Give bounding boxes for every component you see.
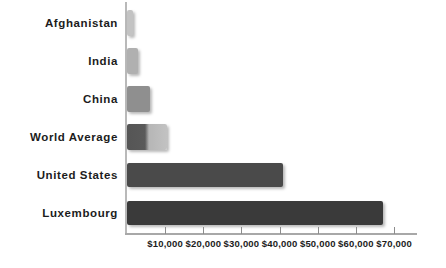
tick-label: $40,000 — [262, 238, 298, 249]
bar-chart-figure: AfghanistanIndiaChinaWorld AverageUnited… — [0, 0, 446, 268]
tick-mark — [356, 227, 357, 234]
tick-label: $50,000 — [300, 238, 336, 249]
tick-mark — [241, 227, 242, 234]
tick-label: $70,000 — [376, 238, 412, 249]
tick-mark — [280, 227, 281, 234]
tick-mark — [394, 227, 395, 234]
tick-label: $20,000 — [185, 238, 221, 249]
tick-mark — [318, 227, 319, 234]
tick-mark — [203, 227, 204, 234]
tick-mark — [165, 227, 166, 234]
x-axis-ticks: $10,000$20,000$30,000$40,000$50,000$60,0… — [0, 0, 446, 268]
tick-label: $30,000 — [224, 238, 260, 249]
tick-label: $10,000 — [147, 238, 183, 249]
tick-label: $60,000 — [338, 238, 374, 249]
